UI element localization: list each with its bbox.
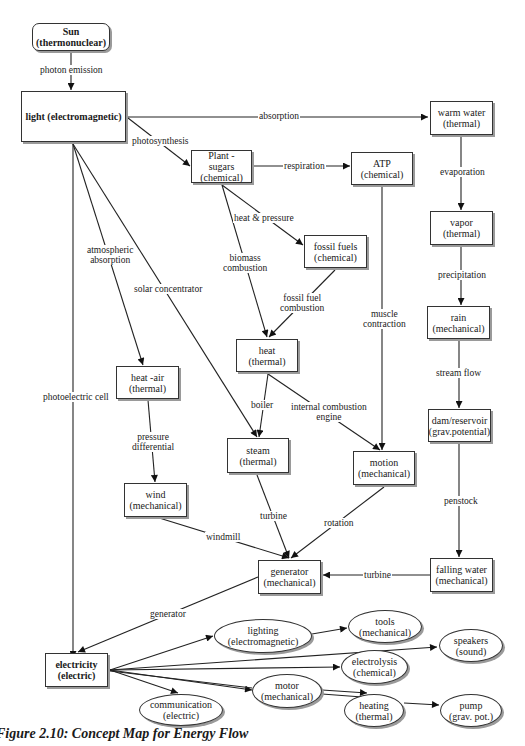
edge-label-muscle-contraction: muscle contraction xyxy=(362,309,407,329)
node-communication: communication (electric) xyxy=(139,694,223,726)
edge-label-photon-emission: photon emission xyxy=(39,65,104,75)
node-speakers: speakers (sound) xyxy=(439,629,503,662)
edge-label-photoelectric-cell: photoelectric cell xyxy=(42,392,110,402)
edge-label-evaporation: evaporation xyxy=(439,167,486,177)
caption-number: Figure 2.10 xyxy=(0,726,64,741)
edge-label-photosynthesis: photosynthesis xyxy=(131,136,189,146)
node-vapor: vapor (thermal) xyxy=(430,211,493,245)
edge-label-rotation: rotation xyxy=(323,518,355,528)
edge-label-atmospheric-absorption: atmospheric absorption xyxy=(86,245,134,265)
edge-label-absorption: absorption xyxy=(258,111,300,121)
edge-label-windmill: windmill xyxy=(205,532,241,542)
edge-label-precipitation: precipitation xyxy=(437,270,487,280)
edge-label-internal-combustion-engine: internal combustion engine xyxy=(290,402,368,422)
node-plant-sugars: Plant - sugars (chemical) xyxy=(191,150,252,183)
node-pump: pump (grav. pot.) xyxy=(440,694,502,727)
edge-label-fossil-fuel-combustion: fossil fuel combustion xyxy=(279,293,325,313)
node-motion: motion (mechanical) xyxy=(353,451,415,485)
edge-label-biomass-combustion: biomass combustion xyxy=(222,253,268,273)
node-atp: ATP (chemical) xyxy=(351,152,413,185)
node-heat: heat (thermal) xyxy=(236,339,298,372)
node-rain: rain (mechanical) xyxy=(427,306,490,339)
node-tools: tools (mechanical) xyxy=(348,610,422,643)
node-steam: steam (thermal) xyxy=(227,438,289,473)
node-lighting: lighting (electromagnetic) xyxy=(214,619,312,653)
node-wind: wind (mechanical) xyxy=(124,483,187,517)
node-motor: motor (mechanical) xyxy=(252,674,322,708)
node-electricity: electricity (electric) xyxy=(45,653,108,687)
figure-caption: Figure 2.10: Concept Map for Energy Flow xyxy=(0,726,248,742)
node-generator: generator (mechanical) xyxy=(258,560,321,594)
node-heating: heating (thermal) xyxy=(344,694,404,727)
edge-label-generator: generator xyxy=(149,609,187,619)
edge-label-boiler: boiler xyxy=(250,400,274,410)
node-dam-reservoir: dam/reservoir (grav.potential) xyxy=(428,409,491,442)
edge-label-turbine-steam: turbine xyxy=(259,511,288,521)
node-falling-water: falling water (mechanical) xyxy=(430,558,493,592)
edge-label-penstock: penstock xyxy=(443,496,479,506)
edge-label-solar-concentrator: solar concentrator xyxy=(133,284,203,294)
node-heat-air: heat -air (thermal) xyxy=(116,366,179,399)
edge-label-turbine-falling: turbine xyxy=(363,570,392,580)
node-electrolysis: electrolysis (chemical) xyxy=(341,650,408,684)
edge-label-respiration: respiration xyxy=(283,161,326,171)
node-warm-water: warm water (thermal) xyxy=(430,101,493,135)
node-fossil-fuels: fossil fuels (chemical) xyxy=(304,235,367,268)
edge-label-pressure-differential: pressure differential xyxy=(131,432,175,452)
edge-label-stream-flow: stream flow xyxy=(435,368,482,378)
caption-title: Concept Map for Energy Flow xyxy=(72,726,249,741)
node-light: light (electromagnetic) xyxy=(21,91,126,142)
edge-label-heat-pressure: heat & pressure xyxy=(233,213,295,223)
node-sun: Sun (thermonuclear) xyxy=(32,23,110,51)
